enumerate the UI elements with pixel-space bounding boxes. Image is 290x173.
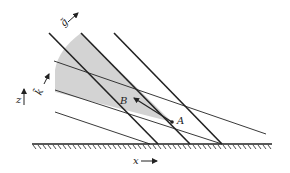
label-x: x [133, 155, 139, 166]
thin-line-3 [55, 112, 150, 144]
label-a: A [176, 115, 184, 126]
label-b: B [119, 95, 127, 106]
vector-k: k̃ [32, 74, 49, 97]
g-arrow-icon [68, 13, 78, 22]
label-g: g̃ [58, 16, 70, 28]
ground-hatching [33, 145, 271, 149]
label-z: z [15, 94, 22, 105]
diagram-canvas: A B g̃ k̃ z x [0, 0, 290, 173]
k-arrow-icon [44, 74, 49, 84]
label-k: k̃ [32, 86, 46, 97]
z-axis-indicator: z [15, 89, 24, 105]
vector-g: g̃ [58, 13, 78, 28]
x-axis-indicator: x [133, 155, 157, 166]
